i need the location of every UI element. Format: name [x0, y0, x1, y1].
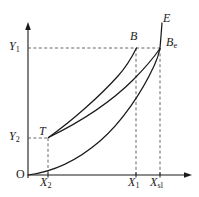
x-axis-label-x1: X1	[128, 176, 139, 188]
branch-T-to-B	[49, 48, 137, 138]
point-label-t: T	[39, 125, 46, 137]
point-label-be: Be	[166, 36, 177, 48]
origin-label: O	[16, 168, 25, 180]
point-label-e: E	[163, 12, 170, 24]
x-axis-label-xsl: Xsl	[150, 176, 163, 188]
diagram-canvas	[0, 0, 199, 197]
point-label-b: B	[130, 30, 137, 42]
y-axis-label-y1: Y1	[9, 40, 20, 52]
figure-container: Y1 Y2 O X2 X1 Xsl T B Be E	[0, 0, 199, 197]
x-axis-label-x2: X2	[40, 176, 51, 188]
y-axis-label-y2: Y2	[9, 130, 20, 142]
x-axis-arrowhead	[184, 172, 192, 178]
branch-T-to-Be	[49, 49, 161, 138]
y-axis-arrowhead	[25, 22, 31, 30]
